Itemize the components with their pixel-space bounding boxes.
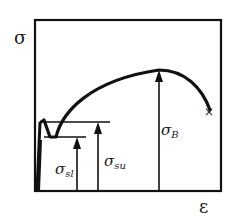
arrow-sigma-sl	[73, 137, 81, 191]
arrow-sigma-su	[94, 122, 102, 191]
label-sigma-su: σsu	[104, 152, 126, 171]
stress-strain-diagram: σ ε × σsl σsu σB	[0, 0, 241, 222]
fracture-marker: ×	[204, 105, 214, 119]
stress-strain-curve	[41, 70, 210, 137]
x-axis-label: ε	[199, 196, 208, 217]
y-axis-label: σ	[14, 27, 26, 48]
label-sigma-B: σB	[161, 121, 179, 140]
label-sigma-sl: σsl	[55, 160, 74, 179]
